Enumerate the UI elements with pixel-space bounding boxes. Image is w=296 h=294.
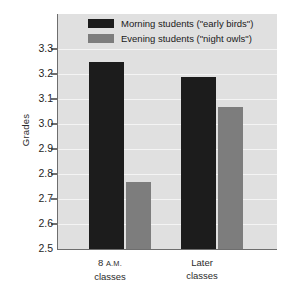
bar-morning-8am <box>89 62 124 250</box>
gridline <box>58 49 277 50</box>
legend-item-evening: Evening students ("night owls") <box>88 33 253 44</box>
bar-morning-later <box>181 77 216 250</box>
y-axis-label: 2.6 <box>13 217 53 229</box>
x-label-number: 8 <box>98 257 103 268</box>
y-axis-label: 2.8 <box>13 167 53 179</box>
x-label-number: Later <box>191 257 213 268</box>
legend-label-morning: Morning students ("early birds") <box>121 18 253 29</box>
y-axis-label: 3.2 <box>13 67 53 79</box>
y-axis-label: 2.5 <box>13 242 53 254</box>
evening-swatch-icon <box>88 34 114 43</box>
x-label-line1: Later <box>147 256 257 269</box>
y-axis-label: 3.3 <box>13 42 53 54</box>
chart-legend: Morning students ("early birds") Evening… <box>88 18 253 44</box>
x-axis-group-label-later: Later classes <box>147 256 257 282</box>
legend-label-evening: Evening students ("night owls") <box>121 33 252 44</box>
bar-chart-figure: Grades 3.3 3.2 3.1 3.0 2.9 2.8 2.7 2.6 2… <box>0 0 296 294</box>
legend-item-morning: Morning students ("early birds") <box>88 18 253 29</box>
x-label-line2: classes <box>147 269 257 282</box>
morning-swatch-icon <box>88 19 114 28</box>
x-label-ampm: A.M. <box>106 259 122 268</box>
bar-evening-8am <box>126 182 151 250</box>
y-axis-label: 2.7 <box>13 192 53 204</box>
y-axis-label: 3.1 <box>13 92 53 104</box>
plot-area <box>57 14 277 250</box>
bar-evening-later <box>218 107 243 250</box>
y-axis-label: 2.9 <box>13 142 53 154</box>
y-axis-label: 3.0 <box>13 117 53 129</box>
